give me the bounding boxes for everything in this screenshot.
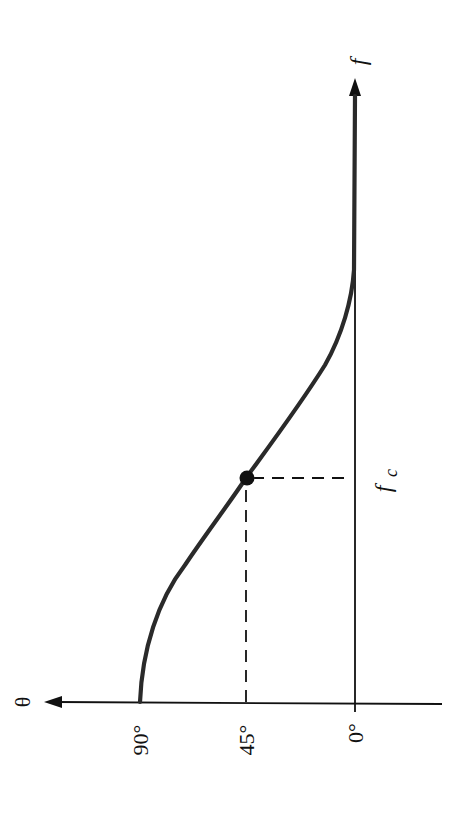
f-axis-label: f — [345, 55, 371, 65]
theta-axis-arrow-icon — [44, 696, 62, 708]
tick-0-label: 0° — [343, 723, 368, 743]
svg-text:c: c — [381, 469, 401, 477]
fc-label: f c — [370, 469, 401, 492]
theta-axis — [56, 702, 442, 704]
theta-axis-label: θ — [10, 697, 35, 708]
fc-point — [240, 471, 255, 486]
phase-curve — [140, 96, 355, 702]
svg-text:f: f — [370, 482, 396, 492]
phase-chart: θ f 90° 45° 0° f c — [0, 0, 470, 833]
tick-90-label: 90° — [128, 725, 153, 756]
f-axis-arrow-icon — [349, 78, 361, 96]
tick-45-label: 45° — [234, 725, 259, 756]
